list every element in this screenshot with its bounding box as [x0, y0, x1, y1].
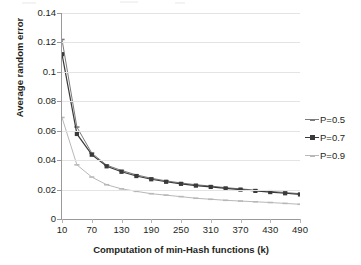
- y-axis-tick: [57, 13, 62, 14]
- y-axis-tick-label: 0.1: [20, 67, 56, 76]
- grid-line: [62, 72, 300, 73]
- legend-item-label: P=0.5: [320, 115, 345, 125]
- legend-swatch-icon: [305, 151, 319, 161]
- series-marker-square: [149, 177, 153, 181]
- y-axis-tick-label: 0: [20, 214, 56, 223]
- scan-artifact: [120, 1, 138, 3]
- y-axis-tick: [57, 160, 62, 161]
- series-marker-square: [209, 185, 213, 189]
- series-marker-square: [283, 191, 287, 195]
- grid-line: [62, 160, 300, 161]
- series-p05: [62, 39, 300, 193]
- legend-item-p07[interactable]: P=0.7: [305, 129, 361, 147]
- legend-swatch-icon: [305, 115, 319, 125]
- series-marker-square: [134, 174, 138, 178]
- y-axis-tick-label: 0.12: [20, 37, 56, 46]
- series-line: [62, 39, 300, 193]
- y-axis-tick-label: 0.02: [20, 185, 56, 194]
- y-axis-tick-label: 0.04: [20, 155, 56, 164]
- x-axis-tick: [300, 219, 301, 223]
- series-marker-square: [119, 170, 123, 174]
- y-axis-tick-label: 0.08: [20, 96, 56, 105]
- series-marker-square: [90, 153, 94, 157]
- grid-line: [62, 13, 300, 14]
- series-marker-square: [164, 180, 168, 184]
- legend-item-p09[interactable]: P=0.9: [305, 147, 361, 165]
- y-axis-tick-label: 0.06: [20, 126, 56, 135]
- legend-marker-dash: [310, 155, 315, 157]
- chart-figure: Average random error 00.020.040.060.080.…: [0, 0, 361, 265]
- legend-marker-square: [310, 135, 315, 140]
- x-axis-tick: [92, 219, 93, 223]
- x-axis-tick: [181, 219, 182, 223]
- y-axis-tick: [57, 42, 62, 43]
- y-axis-tick: [57, 131, 62, 132]
- x-axis-title: Computation of min-Hash functions (k): [40, 244, 322, 255]
- series-marker-square: [62, 52, 64, 56]
- series-marker-square: [268, 190, 272, 194]
- data-series-canvas: [62, 13, 300, 219]
- grid-line: [62, 131, 300, 132]
- grid-line: [62, 101, 300, 102]
- series-marker-square: [194, 184, 198, 188]
- legend-swatch-icon: [305, 133, 319, 143]
- series-line: [62, 54, 300, 194]
- x-axis-tick-labels: 1070130190250310370430490: [0, 224, 361, 238]
- y-axis-tick: [57, 72, 62, 73]
- x-axis-tick: [151, 219, 152, 223]
- series-marker-square: [75, 132, 79, 136]
- x-axis-tick: [62, 219, 63, 223]
- scan-artifact: [175, 2, 185, 4]
- series-marker-square: [298, 192, 300, 196]
- grid-line: [62, 190, 300, 191]
- x-axis-tick-label: 490: [280, 224, 320, 235]
- legend-item-label: P=0.9: [320, 151, 345, 161]
- x-axis-tick: [241, 219, 242, 223]
- grid-line: [62, 42, 300, 43]
- y-axis-tick-label: 0.14: [20, 8, 56, 17]
- y-axis-tick: [57, 190, 62, 191]
- x-axis-tick: [270, 219, 271, 223]
- legend-item-p05[interactable]: P=0.5: [305, 111, 361, 129]
- y-axis-tick: [57, 101, 62, 102]
- legend-item-label: P=0.7: [320, 133, 345, 143]
- x-axis-tick: [122, 219, 123, 223]
- x-axis-tick: [211, 219, 212, 223]
- chart-legend: P=0.5P=0.7P=0.9: [305, 111, 361, 165]
- legend-marker-dash: [310, 119, 315, 121]
- plot-area: [62, 13, 300, 219]
- series-marker-square: [105, 164, 109, 168]
- series-p07: [62, 52, 300, 196]
- series-marker-square: [179, 182, 183, 186]
